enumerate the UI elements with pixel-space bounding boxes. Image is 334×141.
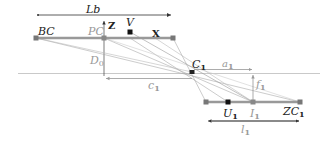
bottom-bar (204, 100, 303, 105)
label-v: V (126, 17, 134, 28)
label-x-axis: X (152, 29, 160, 39)
label-bc: BC (38, 26, 55, 37)
label-d0: D0 (90, 55, 104, 68)
lb-dimension-arrow (37, 14, 171, 16)
label-c1-point: C1 (192, 59, 206, 71)
diagram-canvas: Lb BC PC Z V X D0 C1 a1 c1 f1 U1 I1 ZC1 … (0, 0, 334, 141)
label-u1: U1 (223, 108, 238, 120)
label-l1: l1 (241, 124, 250, 136)
label-lb: Lb (86, 4, 100, 15)
label-i1: I1 (250, 108, 260, 120)
label-f1: f1 (256, 79, 266, 91)
label-pc: PC (88, 26, 104, 37)
diagram-graphics (0, 0, 334, 141)
label-c1-distance: c1 (148, 80, 160, 92)
label-a1: a1 (222, 59, 234, 70)
label-z-axis: Z (108, 21, 115, 31)
label-zc1: ZC1 (283, 106, 305, 118)
v-point-marker (128, 30, 133, 35)
